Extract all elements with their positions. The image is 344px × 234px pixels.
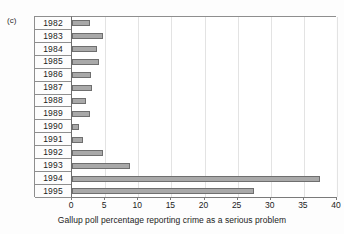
x-tick-label: 15	[166, 201, 175, 210]
bar	[72, 72, 91, 78]
bar-row	[72, 56, 336, 69]
bar	[72, 150, 103, 156]
bar-row	[72, 120, 336, 133]
category-label: 1982	[35, 17, 71, 30]
x-tick-label: 5	[102, 201, 107, 210]
x-tick-label: 35	[298, 201, 307, 210]
bar	[72, 98, 86, 104]
x-tick-label: 0	[69, 201, 74, 210]
category-label: 1994	[35, 172, 71, 185]
bar	[72, 124, 79, 130]
category-label: 1988	[35, 95, 71, 108]
bar	[72, 46, 97, 52]
bar	[72, 59, 99, 65]
category-label: 1990	[35, 120, 71, 133]
bar	[72, 176, 320, 182]
bar	[72, 111, 90, 117]
x-tick-label: 40	[331, 201, 340, 210]
bar-row	[72, 107, 336, 120]
category-label: 1995	[35, 185, 71, 198]
x-tick-label: 20	[199, 201, 208, 210]
bar-row	[72, 17, 336, 30]
bar	[72, 137, 83, 143]
category-label: 1986	[35, 69, 71, 82]
bar-row	[72, 82, 336, 95]
bar	[72, 188, 254, 194]
x-axis-title: Gallup poll percentage reporting crime a…	[0, 215, 344, 225]
category-label: 1992	[35, 146, 71, 159]
category-label: 1984	[35, 43, 71, 56]
category-label: 1989	[35, 107, 71, 120]
bar	[72, 33, 103, 39]
category-axis-labels: 1982198319841985198619871988198919901991…	[34, 16, 71, 197]
category-label: 1987	[35, 82, 71, 95]
bar	[72, 20, 90, 26]
x-tick-label: 10	[133, 201, 142, 210]
plot-area	[71, 16, 336, 197]
bar	[72, 85, 92, 91]
x-tick-label: 30	[265, 201, 274, 210]
bar-row	[72, 172, 336, 185]
panel-label: (c)	[7, 16, 16, 25]
bar-row	[72, 133, 336, 146]
category-label: 1983	[35, 30, 71, 43]
bar-row	[72, 69, 336, 82]
category-label: 1991	[35, 133, 71, 146]
chart-figure: (c) 198219831984198519861987198819891990…	[0, 0, 344, 234]
bar-row	[72, 95, 336, 108]
bar-row	[72, 30, 336, 43]
gridline	[337, 17, 338, 197]
bar	[72, 163, 130, 169]
bar-series	[72, 17, 336, 197]
bar-row	[72, 146, 336, 159]
x-tick-label: 25	[232, 201, 241, 210]
bar-row	[72, 159, 336, 172]
bar-row	[72, 185, 336, 198]
category-label: 1985	[35, 56, 71, 69]
bar-row	[72, 43, 336, 56]
category-label: 1993	[35, 159, 71, 172]
